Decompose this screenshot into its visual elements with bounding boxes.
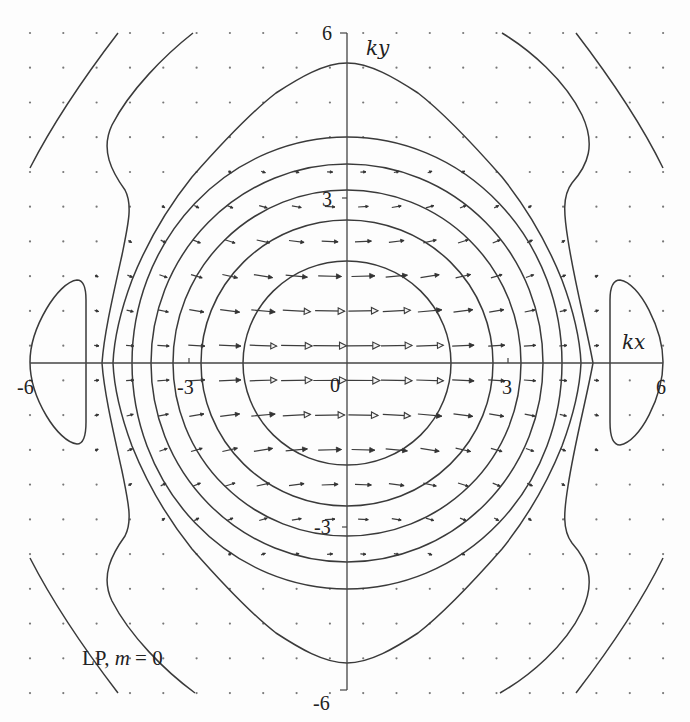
arrow-head-icon bbox=[338, 308, 345, 315]
arrow-head-icon bbox=[96, 344, 99, 347]
field-arrow bbox=[251, 309, 275, 314]
field-dot bbox=[595, 484, 597, 486]
field-dot bbox=[462, 32, 464, 34]
field-arrow bbox=[283, 412, 311, 418]
field-dot bbox=[629, 101, 631, 103]
field-dot bbox=[562, 136, 564, 138]
arrow-head-icon bbox=[336, 274, 341, 279]
arrow-head-icon bbox=[596, 379, 599, 382]
field-dot bbox=[29, 206, 31, 208]
arrow-head-icon bbox=[469, 343, 474, 348]
arrow-head-icon bbox=[373, 377, 380, 384]
arrow-head-icon bbox=[234, 275, 238, 278]
field-dot bbox=[662, 449, 664, 451]
field-dot bbox=[129, 588, 131, 590]
field-dot bbox=[362, 623, 364, 625]
field-arrow bbox=[383, 413, 411, 419]
arrow-head-icon bbox=[334, 483, 338, 487]
arrow-head-icon bbox=[532, 309, 535, 312]
arrow-head-icon bbox=[96, 310, 99, 312]
field-arrow bbox=[162, 205, 165, 207]
field-arrow bbox=[352, 273, 375, 278]
field-dot bbox=[29, 414, 31, 416]
field-arrow bbox=[194, 206, 199, 208]
field-arrow bbox=[454, 308, 473, 312]
arrow-head-icon bbox=[167, 379, 170, 382]
field-arrow bbox=[95, 310, 99, 312]
x-label-3: 3 bbox=[502, 376, 512, 398]
field-dot bbox=[662, 240, 664, 242]
field-dot bbox=[296, 32, 298, 34]
contour-outer-arc-top-left bbox=[30, 33, 118, 168]
field-dot bbox=[529, 623, 531, 625]
arrow-head-icon bbox=[467, 449, 471, 452]
arrow-head-icon bbox=[230, 518, 233, 520]
arrow-head-icon bbox=[564, 310, 567, 312]
field-arrow bbox=[560, 414, 567, 416]
field-dot bbox=[296, 623, 298, 625]
field-dot bbox=[162, 588, 164, 590]
field-dot bbox=[629, 484, 631, 486]
arrow-head-icon bbox=[431, 205, 434, 207]
field-dot bbox=[595, 692, 597, 694]
arrow-head-icon bbox=[595, 448, 598, 450]
field-dot bbox=[395, 692, 397, 694]
field-dot bbox=[62, 310, 64, 312]
field-dot bbox=[129, 101, 131, 103]
field-dot bbox=[96, 692, 98, 694]
field-dot bbox=[629, 310, 631, 312]
field-arrow bbox=[313, 342, 346, 349]
field-dot bbox=[529, 101, 531, 103]
field-dot bbox=[662, 553, 664, 555]
arrow-head-icon bbox=[263, 553, 266, 555]
field-dot bbox=[229, 623, 231, 625]
field-dot bbox=[562, 32, 564, 34]
field-dot bbox=[529, 67, 531, 69]
field-arrow bbox=[225, 483, 235, 487]
field-dot bbox=[562, 657, 564, 659]
arrow-head-icon bbox=[530, 240, 533, 242]
field-dot bbox=[162, 692, 164, 694]
arrow-head-icon bbox=[164, 276, 167, 278]
field-arrow bbox=[559, 379, 567, 382]
arrow-head-icon bbox=[500, 309, 504, 312]
arrow-head-icon bbox=[95, 275, 98, 277]
arrow-head-icon bbox=[405, 377, 412, 384]
field-dot bbox=[395, 623, 397, 625]
field-arrow bbox=[158, 310, 168, 313]
field-dot bbox=[162, 101, 164, 103]
field-dot bbox=[562, 67, 564, 69]
field-dot bbox=[129, 32, 131, 34]
arrow-head-icon bbox=[433, 239, 436, 242]
field-dot bbox=[329, 101, 331, 103]
arrow-head-icon bbox=[130, 449, 133, 451]
field-dot bbox=[629, 171, 631, 173]
field-dot bbox=[529, 588, 531, 590]
field-dot bbox=[562, 171, 564, 173]
field-dot bbox=[429, 657, 431, 659]
field-arrow bbox=[315, 308, 345, 315]
field-dot bbox=[595, 518, 597, 520]
field-dot bbox=[362, 657, 364, 659]
field-dot bbox=[29, 692, 31, 694]
field-dot bbox=[62, 553, 64, 555]
field-dot bbox=[395, 32, 397, 34]
arrow-head-icon bbox=[235, 310, 240, 314]
field-dot bbox=[96, 553, 98, 555]
field-arrow bbox=[562, 483, 565, 485]
arrow-head-icon bbox=[433, 484, 436, 487]
arrow-head-icon bbox=[564, 379, 567, 382]
field-arrow bbox=[318, 447, 341, 452]
arrow-head-icon bbox=[401, 484, 405, 487]
field-arrow bbox=[322, 483, 338, 487]
arrow-head-icon bbox=[196, 206, 199, 208]
field-arrow bbox=[94, 379, 99, 382]
field-dot bbox=[62, 32, 64, 34]
field-dot bbox=[96, 101, 98, 103]
field-dot bbox=[96, 206, 98, 208]
arrow-head-icon bbox=[531, 449, 534, 451]
arrow-head-icon bbox=[270, 309, 276, 314]
field-arrow bbox=[127, 275, 132, 277]
field-arrow bbox=[428, 553, 432, 555]
field-arrow bbox=[595, 448, 598, 450]
